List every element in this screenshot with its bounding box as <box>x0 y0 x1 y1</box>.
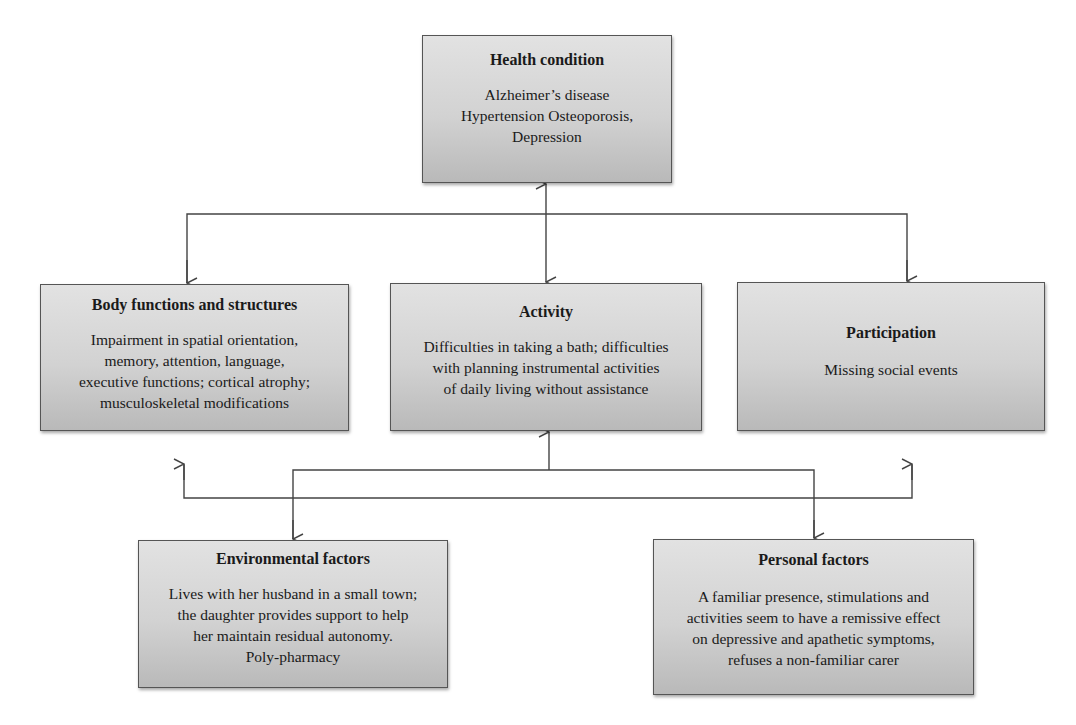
text-line: Lives with her husband in a small town; <box>169 583 417 604</box>
health-condition-text: Alzheimer’s disease Hypertension Osteopo… <box>455 84 639 147</box>
body-functions-text: Impairment in spatial orientation, memor… <box>73 329 316 413</box>
text-line: Impairment in spatial orientation, <box>79 329 310 350</box>
personal-factors-text: A familiar presence, stimulations and ac… <box>681 586 947 670</box>
text-line: Missing social events <box>824 359 957 380</box>
text-line: memory, attention, language, <box>79 350 310 371</box>
text-line: Alzheimer’s disease <box>461 84 633 105</box>
text-line: Depression <box>461 126 633 147</box>
text-line: Hypertension Osteoporosis, <box>461 105 633 126</box>
text-line: Poly-pharmacy <box>169 646 417 667</box>
participation-title: Participation <box>846 323 936 343</box>
text-line: refuses a non-familiar carer <box>687 649 941 670</box>
personal-factors-title: Personal factors <box>758 550 869 570</box>
personal-factors-box: Personal factors A familiar presence, st… <box>653 539 974 695</box>
health-condition-title: Health condition <box>490 50 604 70</box>
activity-text: Difficulties in taking a bath; difficult… <box>417 336 674 399</box>
body-functions-title: Body functions and structures <box>92 295 298 315</box>
text-line: activities seem to have a remissive effe… <box>687 607 941 628</box>
text-line: with planning instrumental activities <box>423 357 668 378</box>
text-line: executive functions; cortical atrophy; <box>79 371 310 392</box>
text-line: of daily living without assistance <box>423 378 668 399</box>
text-line: musculoskeletal modifications <box>79 392 310 413</box>
environmental-factors-box: Environmental factors Lives with her hus… <box>138 540 448 688</box>
participation-box: Participation Missing social events <box>737 282 1045 431</box>
text-line: her maintain residual autonomy. <box>169 625 417 646</box>
inner-bus-line <box>293 470 814 539</box>
environmental-factors-title: Environmental factors <box>216 549 370 569</box>
text-line: Difficulties in taking a bath; difficult… <box>423 336 668 357</box>
environmental-factors-text: Lives with her husband in a small town; … <box>163 583 423 667</box>
text-line: the daughter provides support to help <box>169 604 417 625</box>
health-condition-box: Health condition Alzheimer’s disease Hyp… <box>422 35 672 183</box>
text-line: A familiar presence, stimulations and <box>687 586 941 607</box>
participation-text: Missing social events <box>818 359 963 380</box>
body-functions-box: Body functions and structures Impairment… <box>40 284 349 431</box>
activity-title: Activity <box>519 302 573 322</box>
top-bus-line <box>187 214 907 283</box>
text-line: on depressive and apathetic symptoms, <box>687 628 941 649</box>
activity-box: Activity Difficulties in taking a bath; … <box>390 283 702 431</box>
